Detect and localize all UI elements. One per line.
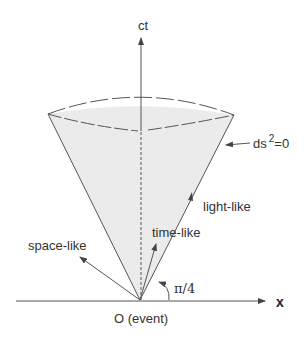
time-like-label: time-like [152,225,200,240]
x-axis-label: x [276,294,284,310]
ct-axis-label: ct [138,18,149,33]
ds-text: ds [253,136,267,151]
angle-arc [159,282,169,300]
angle-label: π/4 [174,281,195,296]
light-cone-diagram: ct x O (event) ds2=0 space-like time-lik… [0,0,307,342]
origin-label: O (event) [114,311,168,326]
cone-surface-label: ds2=0 [253,133,289,151]
ds2-pointer-arrow [226,143,250,145]
space-like-label: space-like [28,238,87,253]
ds-suffix: =0 [274,136,289,151]
light-like-label: light-like [203,199,251,214]
